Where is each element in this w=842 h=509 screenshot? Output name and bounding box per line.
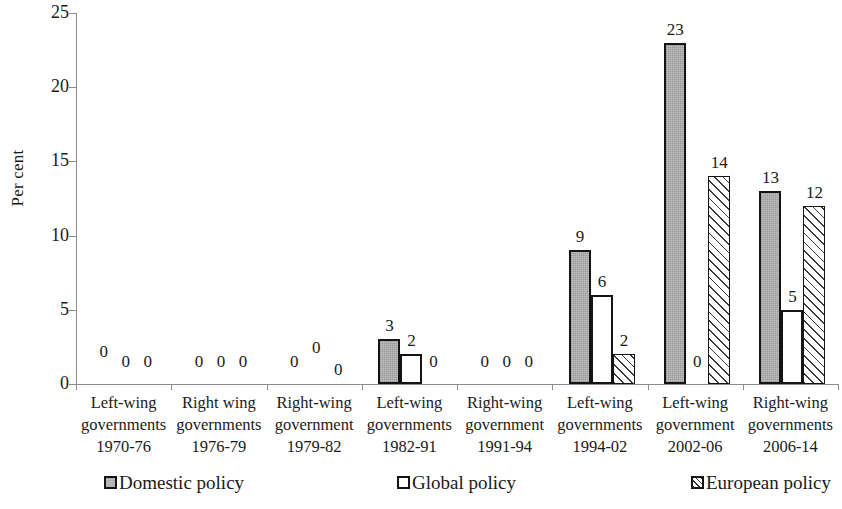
y-axis-tick-mark: [69, 13, 76, 14]
x-axis-category-line: 1982-91: [356, 436, 463, 458]
x-axis-tick-mark: [838, 384, 839, 390]
bar-value-label: 0: [128, 353, 168, 370]
x-axis-category-label: Right-winggovernment1991-94: [451, 392, 558, 457]
x-axis-category-label: Right-winggovernment1979-82: [261, 392, 368, 457]
legend-item-european[interactable]: European policy: [691, 473, 831, 492]
bar-value-label: 12: [794, 184, 834, 201]
x-axis-category-line: 1976-79: [165, 436, 272, 458]
x-axis-tick-mark: [743, 384, 744, 390]
x-axis-category-line: governments: [356, 414, 463, 436]
bar-value-label: 0: [223, 353, 263, 370]
x-axis-category-line: Left-wing: [546, 392, 653, 414]
legend-swatch-icon: [691, 476, 704, 489]
legend-label: Domestic policy: [119, 473, 244, 492]
x-axis-category-line: governments: [70, 414, 177, 436]
y-axis-tick-label: 10: [51, 225, 69, 246]
x-axis-category-label: Right-winggovernments2006-14: [737, 392, 842, 457]
x-axis-tick-mark: [76, 384, 77, 390]
x-axis-category-line: Right-wing: [261, 392, 368, 414]
x-axis-category-line: 1991-94: [451, 436, 558, 458]
bar-value-label: 0: [509, 353, 549, 370]
chart-legend: Domestic policyGlobal policyEuropean pol…: [0, 473, 842, 507]
x-axis-category-line: Left-wing: [70, 392, 177, 414]
legend-label: Global policy: [412, 473, 516, 492]
legend-swatch-icon: [397, 476, 410, 489]
x-axis-category-line: 2002-06: [642, 436, 749, 458]
x-axis-labels: Left-winggovernments1970-76Right winggov…: [76, 392, 838, 464]
y-axis-title: Per cent: [8, 128, 28, 228]
bar-chart: Per cent 0510152025 00030923130002060500…: [0, 0, 842, 509]
y-axis-tick-label: 15: [51, 150, 69, 171]
x-axis-category-line: Right-wing: [451, 392, 558, 414]
x-axis-category-line: governments: [737, 414, 842, 436]
x-axis-tick-mark: [552, 384, 553, 390]
bar-value-label: 5: [772, 288, 812, 305]
x-axis-category-label: Left-winggovernments1970-76: [70, 392, 177, 457]
x-axis-category-line: Left-wing: [356, 392, 463, 414]
bar-value-label: 6: [582, 273, 622, 290]
x-axis-category-line: Right wing: [165, 392, 272, 414]
x-axis-category-label: Left-winggovernment2002-06: [642, 392, 749, 457]
y-axis-tick-label: 25: [51, 2, 69, 23]
x-axis-category-label: Right winggovernments1976-79: [165, 392, 272, 457]
x-axis-category-line: Right-wing: [737, 392, 842, 414]
bar-value-label: 0: [318, 361, 358, 378]
x-axis-category-line: government: [642, 414, 749, 436]
x-axis-tick-mark: [362, 384, 363, 390]
legend-item-global[interactable]: Global policy: [397, 473, 516, 492]
x-axis-tick-mark: [457, 384, 458, 390]
legend-label: European policy: [706, 473, 831, 492]
bar-value-label: 0: [413, 353, 453, 370]
bar-value-label: 23: [655, 21, 695, 38]
bar-european: [613, 354, 635, 384]
x-axis-category-line: Left-wing: [642, 392, 749, 414]
y-axis-tick-label: 20: [51, 76, 69, 97]
y-axis-line: [76, 13, 77, 385]
x-axis-category-line: government: [451, 414, 558, 436]
x-axis-category-line: government: [261, 414, 368, 436]
bar-value-label: 14: [699, 154, 739, 171]
bar-value-label: 0: [296, 339, 336, 356]
y-axis-tick-label: 0: [60, 373, 69, 394]
x-axis-category-label: Left-winggovernments1982-91: [356, 392, 463, 457]
y-axis-tick-mark: [69, 310, 76, 311]
bar-domestic: [664, 43, 686, 384]
bar-domestic: [569, 250, 591, 384]
x-axis-category-line: 1979-82: [261, 436, 368, 458]
bar-value-label: 9: [560, 228, 600, 245]
x-axis-category-line: 1994-02: [546, 436, 653, 458]
y-axis-tick-mark: [69, 87, 76, 88]
y-axis-tick-mark: [69, 236, 76, 237]
x-axis-tick-mark: [171, 384, 172, 390]
bar-value-label: 2: [604, 332, 644, 349]
bar-value-label: 13: [750, 169, 790, 186]
bar-value-label: 2: [391, 332, 431, 349]
bar-value-label: 0: [677, 353, 717, 370]
x-axis-category-line: 2006-14: [737, 436, 842, 458]
y-axis-tick-mark: [69, 384, 76, 385]
x-axis-tick-mark: [267, 384, 268, 390]
x-axis-tick-mark: [648, 384, 649, 390]
bar-global: [781, 310, 803, 384]
legend-swatch-icon: [104, 476, 117, 489]
x-axis-category-line: governments: [546, 414, 653, 436]
x-axis-category-line: governments: [165, 414, 272, 436]
y-axis-tick-label: 5: [60, 299, 69, 320]
plot-area: 0510152025 0003092313000206050000021412: [76, 13, 838, 384]
x-axis-category-label: Left-winggovernments1994-02: [546, 392, 653, 457]
legend-item-domestic[interactable]: Domestic policy: [104, 473, 244, 492]
x-axis-category-line: 1970-76: [70, 436, 177, 458]
y-axis-tick-mark: [69, 161, 76, 162]
